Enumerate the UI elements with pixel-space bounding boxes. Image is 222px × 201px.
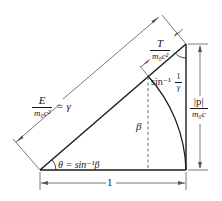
base-arrow-left [41,181,48,185]
momentum-arrow-bottom [198,162,202,169]
top-angle-label: sin⁻¹ 1 γ [151,73,182,92]
momentum-arrow-top [198,45,202,52]
top-angle-prefix: sin⁻¹ [151,76,171,87]
kinetic-denominator: m₀c² [150,50,170,61]
energy-arrow-start [16,136,24,143]
energy-numerator: E [37,95,48,107]
beta-label: β [136,121,141,132]
theta-angle-arc [52,160,56,170]
energy-label: E m₀c² = γ [32,95,71,118]
top-angle-den: γ [175,82,182,92]
theta-label: θ = sin⁻¹β [58,160,100,170]
momentum-label: |p| m₀c [190,96,208,119]
base-dimension [40,172,186,190]
energy-suffix: = γ [56,100,71,112]
kinetic-arrow-start [143,60,149,65]
top-angle-arc [175,53,186,58]
top-angle-num: 1 [174,73,182,82]
momentum-numerator: |p| [192,96,206,108]
energy-denominator: m₀c² [32,107,52,118]
kinetic-label: T m₀c² [150,38,170,61]
kinetic-numerator: T [155,38,165,50]
momentum-denominator: m₀c [190,108,208,119]
base-arrow-right [178,181,185,185]
base-label: 1 [107,177,113,188]
energy-arrow-end [152,17,160,24]
